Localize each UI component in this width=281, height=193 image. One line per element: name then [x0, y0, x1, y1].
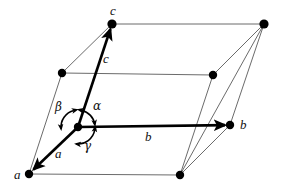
thin-edge-group	[29, 24, 264, 175]
vector-label-b: b	[145, 130, 152, 143]
vertex-abc	[209, 71, 217, 79]
unit-cell-diagram	[0, 0, 281, 193]
vertex-ab	[176, 171, 184, 179]
edge-ab-bc	[180, 24, 264, 175]
vertex-bc	[259, 19, 268, 28]
angle-label-gamma: γ	[84, 140, 91, 152]
vertex-label-c: c	[110, 4, 116, 17]
edge-ac-abc	[62, 73, 213, 75]
edge-b-ab	[180, 125, 230, 175]
vertex-label-b: b	[240, 118, 247, 131]
vertex-a	[25, 170, 33, 178]
edge-b-bc	[230, 24, 264, 125]
vector-label-c: c	[103, 52, 109, 65]
axis-vector-group	[34, 29, 226, 170]
b-vector-arrow	[78, 125, 225, 127]
beta-arc	[61, 111, 74, 129]
angle-label-alpha: α	[93, 100, 101, 112]
vertex-ac	[58, 69, 66, 77]
vector-label-a: a	[55, 147, 62, 160]
vertex-origin	[74, 123, 82, 131]
edge-a-ab	[29, 174, 180, 175]
edge-abc-bc	[213, 24, 264, 75]
unit-cell-figure: c b a c b a α β γ	[0, 0, 281, 193]
vertex-c	[107, 19, 116, 28]
vertex-b	[226, 121, 234, 129]
vertex-label-a: a	[14, 168, 21, 181]
angle-label-beta: β	[55, 101, 62, 113]
